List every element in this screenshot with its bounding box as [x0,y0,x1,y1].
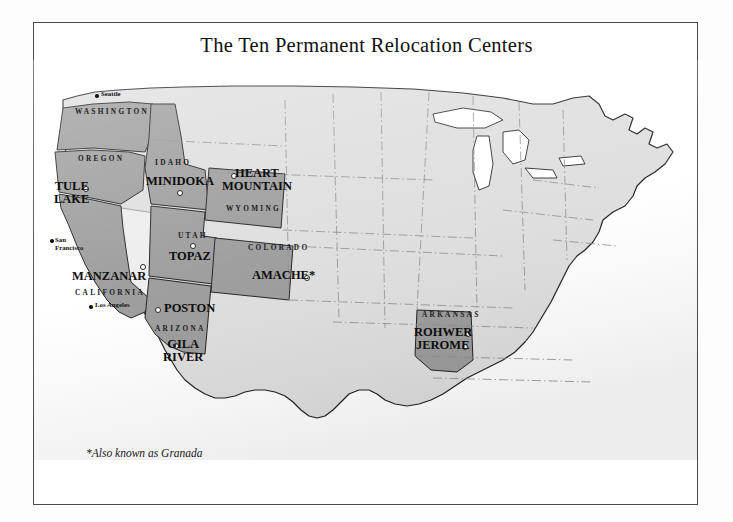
page-title: The Ten Permanent Relocation Centers [0,34,733,57]
lake-ontario [559,156,585,166]
state-arkansas [415,310,473,372]
map-plate: The Ten Permanent Relocation Centers [0,0,733,522]
us-map-svg [33,60,698,460]
state-wyoming [205,168,285,228]
state-colorado [211,238,293,300]
footnote-granada: *Also known as Granada [86,447,203,459]
state-washington [57,102,153,152]
lake-michigan [473,136,493,190]
us-map [33,60,698,460]
state-arizona [145,278,211,354]
